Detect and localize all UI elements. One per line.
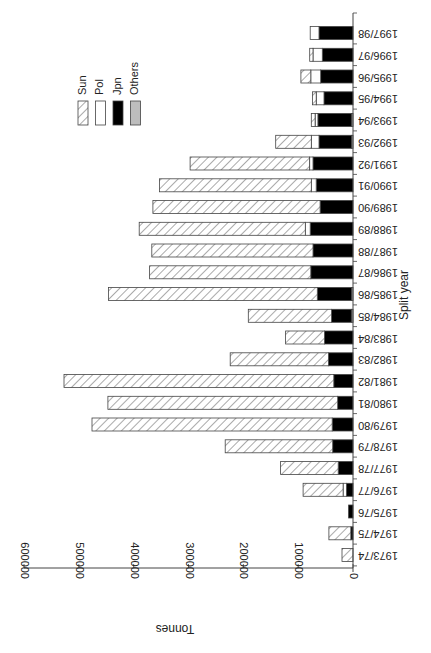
value-tick-label: 100000: [293, 542, 305, 579]
category-label: 1993/94: [358, 115, 398, 127]
bar-1993-94: 1993/94: [311, 114, 398, 128]
segment-jpn: [338, 396, 353, 409]
legend-swatch: [131, 101, 141, 125]
segment-sun: [276, 135, 312, 148]
legend-swatch: [78, 101, 88, 125]
bar-1997-98: 1997/98: [310, 27, 398, 41]
segment-sun: [190, 157, 310, 170]
bar-1995-96: 1995/96: [301, 70, 398, 84]
segment-sun: [311, 114, 315, 127]
value-tick-label: 500000: [74, 542, 86, 579]
value-tick-label: 400000: [129, 542, 141, 579]
category-label: 1978/79: [358, 441, 398, 453]
segment-sun: [281, 462, 339, 475]
segment-jpn: [322, 48, 353, 61]
value-tick-label: 600000: [19, 542, 31, 579]
segment-jpn: [324, 92, 353, 105]
segment-jpn: [332, 418, 353, 431]
category-label: 1996/97: [358, 50, 398, 62]
segment-sun: [150, 266, 311, 279]
value-tick-label: 300000: [184, 542, 196, 579]
segment-sun: [310, 48, 313, 61]
legend-swatch: [113, 101, 123, 125]
segment-pol: [315, 114, 318, 127]
segment-sun: [301, 70, 311, 83]
segment-jpn: [333, 440, 353, 453]
bar-1990-91: 1990/91: [159, 179, 397, 193]
segment-pol: [310, 157, 313, 170]
segment-pol: [305, 222, 310, 235]
bar-1981-82: 1981/82: [64, 375, 398, 389]
category-label: 1991/92: [358, 159, 398, 171]
segment-pol: [311, 70, 321, 83]
bar-1994-95: 1994/95: [312, 92, 397, 106]
segment-sun: [303, 483, 343, 496]
category-label: 1976/77: [358, 485, 398, 497]
segment-jpn: [334, 375, 353, 388]
segment-sun: [92, 418, 332, 431]
legend-item-others: Others: [128, 61, 140, 125]
stacked-bar-chart: 1973/741974/751975/761976/771977/781978/…: [0, 0, 431, 653]
segment-sun: [225, 440, 333, 453]
segment-jpn: [325, 331, 354, 344]
segment-jpn: [318, 114, 351, 127]
value-axis-title: Tonnes: [156, 622, 195, 636]
bar-1973-74: 1973/74: [342, 549, 398, 563]
segment-sun: [342, 549, 353, 562]
category-label: 1983/84: [358, 333, 398, 345]
legend-label: Others: [128, 61, 140, 95]
segment-jpn: [321, 70, 353, 83]
segment-pol: [311, 179, 316, 192]
category-label: 1988/89: [358, 224, 398, 236]
legend-item-pol: Pol: [93, 79, 105, 125]
legend-item-jpn: Jpn: [111, 77, 123, 125]
category-label: 1982/83: [358, 354, 398, 366]
bar-1985-86: 1985/86: [108, 288, 397, 302]
category-axis-title: Split year: [397, 270, 411, 320]
category-label: 1994/95: [358, 93, 398, 105]
segment-sun: [159, 179, 311, 192]
segment-sun: [152, 244, 313, 257]
category-label: 1977/78: [358, 463, 398, 475]
category-label: 1995/96: [358, 72, 398, 84]
bar-1979-80: 1979/80: [92, 418, 398, 432]
category-label: 1997/98: [358, 28, 398, 40]
category-label: 1986/87: [358, 267, 398, 279]
bar-1976-77: 1976/77: [303, 483, 398, 497]
bar-1991-92: 1991/92: [190, 157, 398, 171]
segment-pol: [313, 48, 322, 61]
segment-jpn: [346, 483, 353, 496]
segment-sun: [139, 222, 305, 235]
category-label: 1980/81: [358, 398, 398, 410]
bar-1987-88: 1987/88: [152, 244, 398, 258]
bar-1974-75: 1974/75: [329, 527, 398, 541]
segment-sun: [153, 201, 320, 214]
segment-jpn: [319, 27, 353, 40]
segment-pol: [311, 135, 319, 148]
segment-pol: [316, 92, 324, 105]
bar-1983-84: 1983/84: [286, 331, 398, 345]
value-tick-label: 0: [348, 573, 360, 579]
segment-sun: [312, 92, 316, 105]
bar-1977-78: 1977/78: [281, 462, 398, 476]
legend-label: Pol: [93, 79, 105, 95]
legend-label: Sun: [76, 75, 88, 95]
segment-pol: [310, 27, 319, 40]
bar-1982-83: 1982/83: [230, 353, 398, 367]
value-tick-label: 200000: [238, 542, 250, 579]
category-label: 1984/85: [358, 311, 398, 323]
category-label: 1979/80: [358, 420, 398, 432]
segment-sun: [108, 396, 338, 409]
segment-jpn: [316, 179, 353, 192]
segment-jpn: [338, 462, 353, 475]
segment-sun: [286, 331, 325, 344]
segment-sun: [230, 353, 328, 366]
bar-1984-85: 1984/85: [248, 309, 398, 323]
segment-sun: [64, 375, 334, 388]
segment-sun: [329, 527, 351, 540]
category-label: 1987/88: [358, 246, 398, 258]
segment-sun: [108, 288, 317, 301]
legend-label: Jpn: [111, 77, 123, 95]
bar-1996-97: 1996/97: [310, 48, 398, 62]
bar-1986-87: 1986/87: [150, 266, 398, 280]
